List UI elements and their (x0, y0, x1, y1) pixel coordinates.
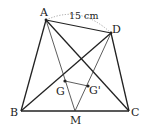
label-m: M (70, 114, 81, 127)
segment-gg2 (65, 81, 88, 86)
segment-ab (21, 20, 46, 111)
segment-dm (75, 33, 111, 111)
measure-label: 15 cm (69, 10, 98, 21)
point-a (45, 19, 48, 22)
label-g2: G' (89, 84, 101, 97)
trapezoid-diagram: A D B C M G G' 15 cm (0, 0, 149, 129)
label-c: C (131, 106, 139, 119)
label-a: A (39, 6, 49, 19)
label-g: G (56, 85, 65, 98)
segment-cd (111, 33, 129, 111)
label-b: B (10, 106, 18, 119)
point-g (63, 79, 66, 82)
diagonal-bd (21, 33, 111, 111)
label-d: D (112, 23, 121, 36)
